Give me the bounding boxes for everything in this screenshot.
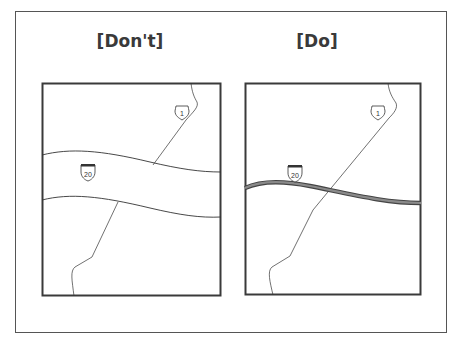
svg-text:20: 20: [84, 171, 92, 178]
dont-map: 20 1: [42, 83, 221, 296]
interstate-shield-icon: 20: [288, 165, 302, 182]
svg-text:1: 1: [376, 110, 380, 117]
svg-text:1: 1: [180, 110, 184, 117]
do-map: 20 1: [245, 83, 421, 295]
interstate-shield-icon: 20: [81, 164, 95, 181]
maps: 20 1 20 1: [0, 0, 463, 347]
svg-text:20: 20: [291, 172, 299, 179]
